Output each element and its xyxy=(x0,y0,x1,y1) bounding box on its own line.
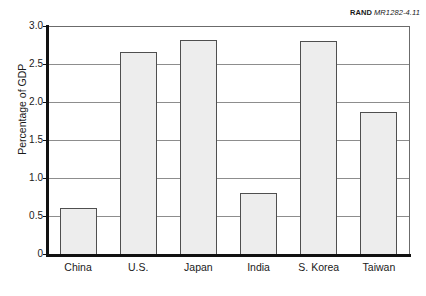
bar-slot xyxy=(48,26,108,254)
bar xyxy=(60,208,97,254)
bar-slot xyxy=(289,26,349,254)
bar xyxy=(240,193,277,254)
bar xyxy=(360,112,397,254)
bar xyxy=(180,40,217,254)
x-axis-category-labels: ChinaU.S.JapanIndiaS. KoreaTaiwan xyxy=(48,262,409,282)
y-axis-tick-label: 0 xyxy=(37,249,43,259)
rand-figure-number: MR1282-4.11 xyxy=(374,8,420,17)
y-axis-tick-label: 1.5 xyxy=(29,135,43,145)
bars-group xyxy=(48,26,409,254)
x-axis-category-label: India xyxy=(229,262,289,273)
y-axis-tick-label: 2.5 xyxy=(29,59,43,69)
bar-slot xyxy=(229,26,289,254)
y-axis-tick-label: 2.0 xyxy=(29,97,43,107)
x-axis-category-label: U.S. xyxy=(108,262,168,273)
bar-slot xyxy=(349,26,409,254)
bar xyxy=(300,41,337,254)
rand-logo-text: RAND xyxy=(350,8,372,17)
x-axis-category-label: China xyxy=(48,262,108,273)
x-axis-line xyxy=(46,254,411,257)
x-axis-category-label: Taiwan xyxy=(349,262,409,273)
rand-figure-credit: RANDMR1282-4.11 xyxy=(350,9,420,17)
y-axis-tick-label: 1.0 xyxy=(29,173,43,183)
y-axis-tick-label: 3.0 xyxy=(29,21,43,31)
bar-chart-figure: RANDMR1282-4.11 Percentage of GDP 00.51.… xyxy=(0,0,426,296)
bar-slot xyxy=(108,26,168,254)
x-axis-category-label: Japan xyxy=(168,262,228,273)
bar xyxy=(120,52,157,254)
y-axis-title: Percentage of GDP xyxy=(17,44,28,174)
x-axis-category-label: S. Korea xyxy=(289,262,349,273)
y-axis-tick-label: 0.5 xyxy=(29,211,43,221)
bar-slot xyxy=(168,26,228,254)
